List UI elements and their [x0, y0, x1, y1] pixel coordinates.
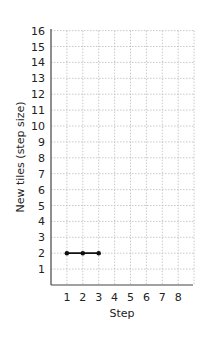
- y-tick-label: 6: [38, 184, 45, 197]
- y-tick-label: 12: [31, 88, 45, 101]
- x-tick-label: 5: [127, 291, 134, 304]
- y-tick-label: 11: [31, 104, 45, 117]
- x-tick-labels: 12345678: [63, 291, 181, 304]
- y-tick-label: 16: [31, 25, 45, 38]
- y-tick-label: 10: [31, 120, 45, 133]
- data-point: [81, 251, 86, 256]
- y-axis-label: New tiles (step size): [14, 101, 27, 212]
- line-chart: 12345678910111213141516 12345678 Step Ne…: [0, 0, 203, 344]
- x-tick-label: 3: [95, 291, 102, 304]
- data-point: [96, 251, 101, 256]
- y-tick-label: 1: [38, 263, 45, 276]
- y-tick-label: 4: [38, 215, 45, 228]
- y-tick-label: 9: [38, 136, 45, 149]
- y-tick-label: 8: [38, 152, 45, 165]
- grid-lines: [51, 31, 194, 285]
- x-axis-label: Step: [109, 307, 134, 320]
- y-tick-label: 2: [38, 247, 45, 260]
- x-tick-label: 4: [111, 291, 118, 304]
- y-tick-label: 15: [31, 41, 45, 54]
- x-tick-label: 2: [79, 291, 86, 304]
- x-tick-label: 7: [159, 291, 166, 304]
- x-tick-label: 8: [175, 291, 182, 304]
- y-tick-label: 3: [38, 231, 45, 244]
- y-tick-labels: 12345678910111213141516: [31, 25, 45, 277]
- y-tick-label: 7: [38, 168, 45, 181]
- y-tick-label: 5: [38, 200, 45, 213]
- y-tick-label: 13: [31, 72, 45, 85]
- y-tick-label: 14: [31, 56, 45, 69]
- data-point: [65, 251, 70, 256]
- x-tick-label: 1: [63, 291, 70, 304]
- data-series: [65, 251, 101, 256]
- x-tick-label: 6: [143, 291, 150, 304]
